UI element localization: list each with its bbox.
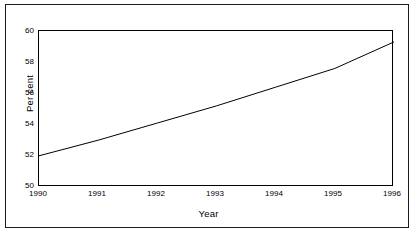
y-tick-label-54: 54 xyxy=(12,120,34,128)
x-tick-label-1994: 1994 xyxy=(252,190,296,198)
data-line-svg xyxy=(39,31,394,187)
chart-figure: Per cent 60 58 56 54 52 50 1990 1991 199… xyxy=(0,0,417,235)
y-tick-label-60: 60 xyxy=(12,27,34,35)
x-tick-label-1995: 1995 xyxy=(311,190,355,198)
x-tick-label-1990: 1990 xyxy=(16,190,60,198)
y-tick-label-58: 58 xyxy=(12,58,34,66)
x-tick-label-1993: 1993 xyxy=(193,190,237,198)
plot-area xyxy=(38,30,393,186)
x-tick-label-1991: 1991 xyxy=(75,190,119,198)
y-tick-label-56: 56 xyxy=(12,89,34,97)
x-tick-label-1992: 1992 xyxy=(134,190,178,198)
x-tick-label-1996: 1996 xyxy=(370,190,414,198)
data-series-line xyxy=(39,42,394,156)
x-axis-label: Year xyxy=(0,208,417,219)
y-tick-label-52: 52 xyxy=(12,151,34,159)
